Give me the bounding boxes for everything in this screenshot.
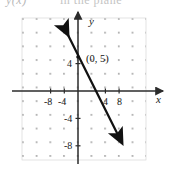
x-tick-label-pos8: 8 bbox=[117, 96, 122, 107]
x-axis-label: x bbox=[155, 93, 161, 105]
coordinate-plane-figure: y x -8 -4 4 8 4 -4 -8 (0, 5) bbox=[0, 10, 172, 171]
y-tick-label-neg8: -8 bbox=[64, 140, 72, 151]
grid-dots bbox=[22, 18, 146, 160]
y-tick-label-pos4: 4 bbox=[67, 58, 72, 69]
y-intercept-point bbox=[76, 55, 80, 59]
point-annotation: (0, 5) bbox=[86, 53, 109, 65]
x-tick-label-neg8: -8 bbox=[44, 96, 52, 107]
header-text-right: in the plane bbox=[60, 0, 122, 8]
y-tick-label-neg4: -4 bbox=[64, 113, 72, 124]
y-axis-label: y bbox=[88, 15, 94, 27]
x-tick-label-neg4: -4 bbox=[58, 96, 66, 107]
screenshot-root: y(x) in the plane bbox=[0, 0, 172, 171]
x-tick-label-pos4: 4 bbox=[103, 96, 108, 107]
header-text-left: y(x) bbox=[6, 0, 27, 8]
